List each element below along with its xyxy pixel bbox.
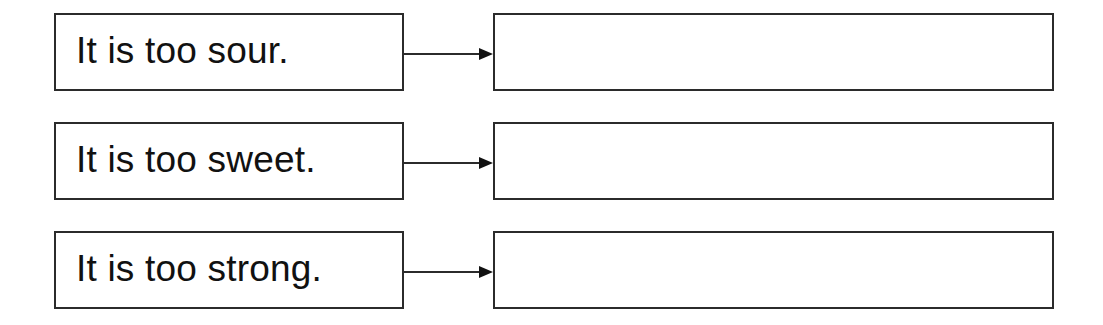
prompt-box: It is too strong. <box>54 231 404 309</box>
answer-box[interactable] <box>493 231 1054 309</box>
arrow-right-icon <box>403 157 493 169</box>
prompt-box: It is too sour. <box>54 13 404 91</box>
diagram-row-1: It is too sour. <box>0 13 1103 91</box>
prompt-text: It is too sweet. <box>76 139 316 181</box>
prompt-text: It is too strong. <box>76 248 322 290</box>
diagram-row-3: It is too strong. <box>0 231 1103 309</box>
answer-box[interactable] <box>493 122 1054 200</box>
arrow-right-icon <box>403 266 493 278</box>
answer-box[interactable] <box>493 13 1054 91</box>
diagram-row-2: It is too sweet. <box>0 122 1103 200</box>
prompt-box: It is too sweet. <box>54 122 404 200</box>
arrow-right-icon <box>403 48 493 60</box>
prompt-text: It is too sour. <box>76 30 289 72</box>
